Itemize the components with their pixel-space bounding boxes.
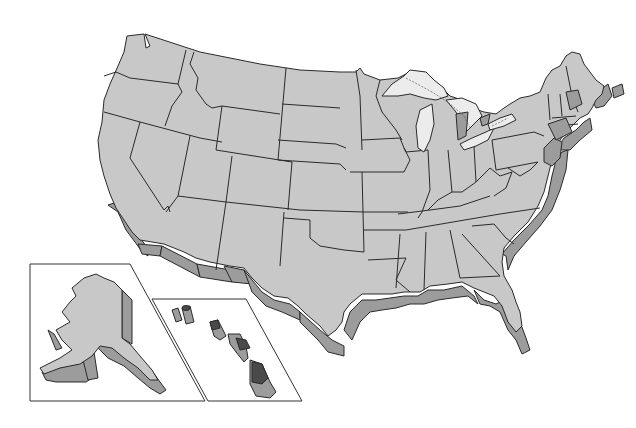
us-outline-map xyxy=(0,0,636,428)
contiguous-us-landmass xyxy=(98,34,604,336)
